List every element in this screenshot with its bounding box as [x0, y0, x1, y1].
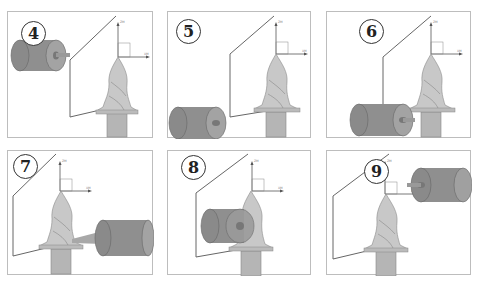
workpiece-icon — [254, 54, 300, 137]
svg-text:ZM: ZM — [254, 159, 259, 163]
svg-text:ZM: ZM — [387, 159, 392, 163]
step-badge: 4 — [21, 21, 46, 46]
svg-text:XM: XM — [144, 52, 149, 56]
axis-triad-icon: ZM XM — [59, 159, 93, 193]
axis-triad-icon: ZM XM — [275, 20, 309, 56]
step-badge: 7 — [13, 154, 38, 179]
grinding-wheel-icon — [407, 168, 472, 202]
axis-triad-icon: ZM XM — [251, 159, 285, 193]
panel-step-6: ZM XM 6 — [326, 11, 471, 138]
svg-text:ZM: ZM — [120, 20, 125, 24]
svg-text:ZM: ZM — [278, 20, 283, 24]
axis-triad-icon: ZM XM — [117, 20, 151, 59]
svg-text:XM: XM — [302, 49, 307, 53]
svg-text:XM: XM — [457, 49, 462, 53]
grinding-wheel-icon — [72, 220, 154, 256]
panel-step-8: ZM XM 8 — [167, 150, 311, 275]
panel-step-5: ZM XM 5 — [167, 11, 311, 138]
svg-text:ZM: ZM — [62, 159, 67, 163]
workpiece-icon — [39, 191, 83, 274]
workpiece-icon — [409, 54, 455, 137]
step-badge: 6 — [359, 19, 384, 44]
svg-text:XM: XM — [86, 186, 91, 190]
step-badge: 5 — [176, 19, 201, 44]
step-6-illustration: ZM XM — [327, 12, 472, 139]
svg-text:ZM: ZM — [433, 20, 438, 24]
grinding-wheel-icon — [201, 209, 254, 243]
panel-step-7: ZM XM 7 — [7, 150, 153, 275]
step-9-illustration: ZM XM — [327, 151, 472, 276]
step-badge: 8 — [181, 155, 206, 180]
step-badge: 9 — [364, 159, 389, 184]
svg-text:XM: XM — [278, 186, 283, 190]
axis-triad-icon: ZM XM — [430, 20, 464, 56]
workpiece-icon — [364, 194, 408, 276]
grinding-wheel-icon — [11, 40, 70, 71]
panel-step-4: ZM XM 4 — [7, 11, 153, 138]
grinding-wheel-icon — [350, 104, 415, 136]
grinding-wheel-icon — [169, 107, 226, 139]
panel-step-9: ZM XM 9 — [326, 150, 471, 275]
workpiece-icon — [96, 57, 138, 137]
